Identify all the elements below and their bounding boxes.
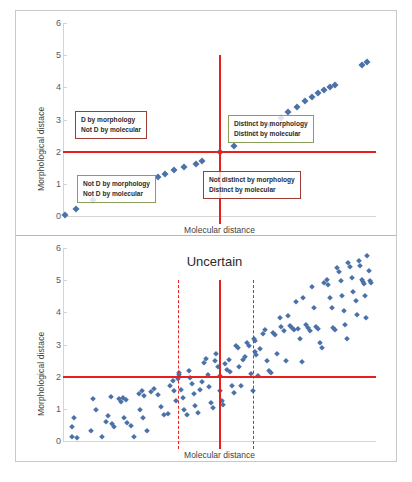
y-tick-label: 0 xyxy=(41,212,61,221)
data-point-marker xyxy=(220,402,226,408)
data-point-marker xyxy=(137,407,143,413)
data-point-marker xyxy=(151,386,157,392)
data-point-marker xyxy=(158,404,164,410)
data-point-marker xyxy=(87,428,93,434)
data-point-marker xyxy=(236,364,242,370)
data-point-marker xyxy=(93,407,99,413)
data-point-marker xyxy=(294,103,301,110)
figure-frame: 0123456D by morphologyNot D by molecular… xyxy=(15,10,397,462)
data-point-marker xyxy=(141,393,147,399)
data-point-marker xyxy=(192,403,198,409)
data-point-marker xyxy=(189,381,195,387)
y-tick-mark xyxy=(63,409,67,410)
annotation-line: Distinct by morphology xyxy=(234,119,308,129)
data-point-marker xyxy=(348,274,354,280)
data-point-marker xyxy=(111,424,117,430)
data-point-marker xyxy=(283,358,289,364)
data-point-marker xyxy=(171,167,178,174)
data-point-marker xyxy=(276,315,282,321)
data-point-marker xyxy=(363,315,369,321)
data-point-marker xyxy=(315,326,321,332)
data-point-marker xyxy=(338,278,344,284)
data-point-marker xyxy=(293,299,299,305)
data-point-marker xyxy=(357,263,363,269)
data-point-marker xyxy=(229,383,235,389)
data-point-marker xyxy=(90,395,96,401)
y-tick-label: 5 xyxy=(41,276,61,285)
annotation-line: Not D by morphology xyxy=(83,179,150,189)
y-tick-mark xyxy=(63,23,67,24)
data-point-marker xyxy=(300,295,306,301)
figure-caption xyxy=(14,470,404,482)
data-point-marker xyxy=(105,413,111,419)
uncertain-label: Uncertain xyxy=(187,254,243,269)
y-tick-mark xyxy=(63,87,67,88)
data-point-marker xyxy=(246,343,252,349)
quadrant-annotation-top-right: Distinct by morphologyDistinct by molecu… xyxy=(228,115,314,143)
y-tick-label: 4 xyxy=(41,83,61,92)
data-point-marker xyxy=(107,394,113,400)
x-axis-title-top: Molecular distance xyxy=(63,225,376,235)
data-point-marker xyxy=(298,359,304,365)
annotation-line: Not D by molecular xyxy=(81,125,141,135)
data-point-marker xyxy=(186,368,192,374)
data-point-marker xyxy=(319,345,325,351)
data-point-marker xyxy=(178,386,184,392)
quadrant-annotation-bottom-right: Not distinct by morphologyDistinct by mo… xyxy=(203,171,301,199)
y-axis-title-bottom: Morphological distace xyxy=(36,332,46,416)
data-point-marker xyxy=(362,292,368,298)
data-point-marker xyxy=(328,304,334,310)
threshold-line-vertical-dashed xyxy=(253,280,254,449)
data-point-marker xyxy=(364,253,370,259)
y-tick-label: 4 xyxy=(41,308,61,317)
data-point-marker xyxy=(344,336,350,342)
data-point-marker xyxy=(281,328,287,334)
data-point-marker xyxy=(332,327,338,333)
data-point-marker xyxy=(155,392,161,398)
data-point-marker xyxy=(235,345,241,351)
data-point-marker xyxy=(327,295,333,301)
data-point-marker xyxy=(353,298,359,304)
plot-area-bottom: 0123456Uncertain xyxy=(63,248,376,448)
y-tick-mark xyxy=(63,184,67,185)
data-point-marker xyxy=(230,390,236,396)
data-point-marker xyxy=(184,412,190,418)
data-point-marker xyxy=(230,142,237,149)
data-point-marker xyxy=(242,354,248,360)
data-point-marker xyxy=(274,351,280,357)
y-tick-label: 5 xyxy=(41,51,61,60)
data-point-marker xyxy=(295,326,301,332)
annotation-line: D by morphology xyxy=(81,115,141,125)
data-point-marker xyxy=(61,212,68,219)
data-point-marker xyxy=(179,394,185,400)
annotation-line: Distinct by molecular xyxy=(234,129,308,139)
data-point-marker xyxy=(366,268,372,274)
data-point-marker xyxy=(350,289,356,295)
y-tick-mark xyxy=(63,441,67,442)
data-point-marker xyxy=(297,336,303,342)
data-point-marker xyxy=(339,292,345,298)
annotation-line: Not D by molecular xyxy=(83,189,150,199)
data-point-marker xyxy=(199,379,205,385)
data-point-marker xyxy=(171,388,177,394)
data-point-marker xyxy=(325,282,331,288)
data-point-marker xyxy=(180,164,187,171)
data-point-marker xyxy=(238,383,244,389)
chart-panel-top: 0123456D by morphologyNot D by molecular… xyxy=(16,11,396,236)
data-point-marker xyxy=(73,205,80,212)
data-point-marker xyxy=(341,308,347,314)
data-point-marker xyxy=(194,410,200,416)
data-point-marker xyxy=(71,415,77,421)
threshold-line-vertical-dashed xyxy=(178,280,179,449)
data-point-marker xyxy=(354,312,360,318)
data-point-marker xyxy=(206,384,212,390)
data-point-marker xyxy=(309,284,315,290)
y-tick-mark xyxy=(63,248,67,249)
data-point-marker xyxy=(191,391,197,397)
data-point-marker xyxy=(285,313,291,319)
data-point-marker xyxy=(197,386,203,392)
data-point-marker xyxy=(272,332,278,338)
data-point-marker xyxy=(336,269,342,275)
data-point-marker xyxy=(128,422,134,428)
data-point-marker xyxy=(311,305,317,311)
